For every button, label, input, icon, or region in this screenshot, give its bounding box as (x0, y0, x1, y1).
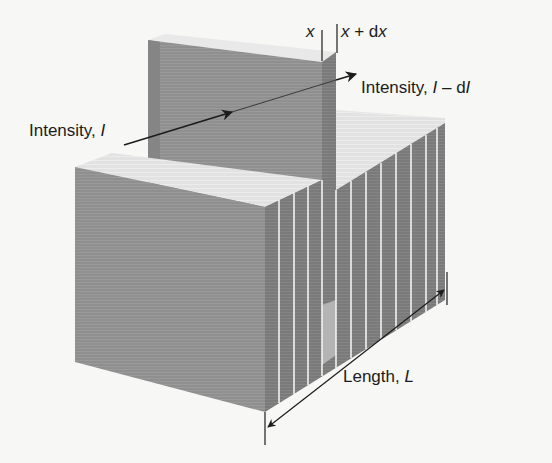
transmitted-arrow (336, 74, 356, 80)
label-length: Length, L (343, 367, 414, 387)
x-symbol: x (306, 22, 315, 41)
thin-slice-dx (322, 52, 336, 310)
left-block-front (75, 167, 265, 412)
diagram-canvas: x x + dx Intensity, I Intensity, I – dI … (0, 0, 552, 463)
label-intensity-in: Intensity, I (29, 121, 105, 141)
label-intensity-out: Intensity, I – dI (361, 78, 470, 98)
inner-gap (322, 300, 336, 365)
x-symbol: x (341, 22, 350, 41)
intensity-text: Intensity, (29, 121, 101, 140)
intensity-symbol: I (101, 121, 106, 140)
intensity-text: Intensity, (361, 78, 433, 97)
label-x-plus-dx: x + dx (341, 22, 387, 42)
x-symbol: x (378, 22, 387, 41)
intensity-symbol: I (466, 78, 471, 97)
label-x: x (306, 22, 315, 42)
plus-d-text: + d (350, 22, 379, 41)
minus-d-text: – d (437, 78, 465, 97)
length-symbol: L (404, 367, 413, 386)
slab-diagram (0, 0, 552, 463)
length-text: Length, (343, 367, 404, 386)
